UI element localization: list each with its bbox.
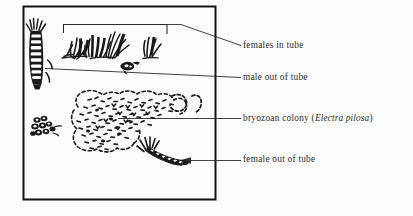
label-females-in-tube: females in tube [243, 41, 304, 50]
label-bryozoan-species-name: Electra pilosa [315, 113, 370, 123]
label-bryozoan-colony-prefix: bryozoan colony ( [243, 113, 315, 123]
label-female-out-of-tube: female out of tube [243, 155, 315, 164]
figure-illustration [0, 0, 413, 216]
figure-root: females in tube male out of tube bryozoa… [0, 0, 413, 216]
label-bryozoan-colony-suffix: ) [369, 113, 372, 123]
figure-background [0, 0, 413, 216]
label-male-out-of-tube: male out of tube [243, 73, 308, 82]
label-bryozoan-colony: bryozoan colony (Electra pilosa) [243, 114, 373, 123]
